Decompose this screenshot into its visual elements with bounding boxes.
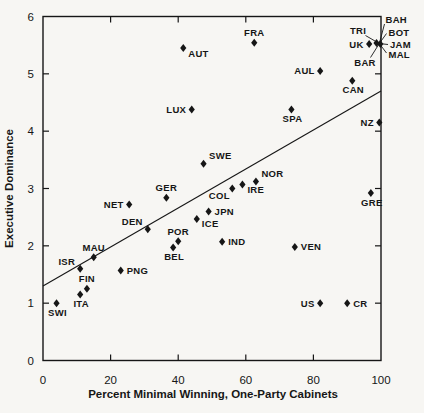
data-point-IND: IND	[219, 236, 245, 247]
y-tick-label-1: 1	[28, 297, 34, 309]
point-label: GER	[156, 182, 178, 193]
cluster-label-BOT: BOT	[389, 27, 410, 38]
data-point-DEN: DEN	[122, 216, 151, 233]
y-tick-label-6: 6	[28, 11, 34, 23]
marker-diamond	[317, 67, 323, 75]
marker-diamond	[239, 180, 245, 188]
point-label: ITA	[73, 298, 89, 309]
data-point-ICE: ICE	[194, 215, 219, 230]
point-label: ISR	[58, 256, 75, 267]
point-label: US	[301, 298, 315, 309]
data-point-IRE: IRE	[239, 180, 264, 195]
point-label: VEN	[301, 241, 321, 252]
y-tick-label-4: 4	[28, 125, 35, 137]
marker-diamond	[194, 215, 200, 223]
marker-diamond	[219, 238, 225, 246]
x-tick-label-0: 0	[40, 374, 46, 386]
data-point-FIN: FIN	[79, 273, 95, 293]
point-label: BEL	[164, 251, 184, 262]
marker-diamond	[366, 40, 372, 48]
marker-diamond	[84, 285, 90, 293]
point-label: IRE	[247, 184, 264, 195]
data-point-NZ: NZ	[361, 117, 383, 128]
marker-diamond	[292, 243, 298, 251]
x-tick-label-20: 20	[104, 374, 117, 386]
point-label: UK	[349, 39, 363, 50]
figure-page: 0204060801000123456Percent Minimal Winni…	[0, 0, 424, 413]
x-tick-label-60: 60	[239, 374, 252, 386]
marker-diamond	[251, 39, 257, 47]
point-label: ICE	[202, 218, 219, 229]
data-point-POR: POR	[167, 226, 189, 246]
point-label: CAN	[343, 84, 364, 95]
data-point-NET: NET	[104, 199, 133, 210]
cluster-label-BAH: BAH	[386, 14, 407, 25]
x-tick-labels: 020406080100	[40, 374, 391, 386]
x-tick-label-100: 100	[371, 374, 390, 386]
data-point-BEL: BEL	[164, 244, 184, 263]
point-label: LUX	[166, 104, 186, 115]
point-label: NET	[104, 199, 124, 210]
y-tick-label-5: 5	[28, 68, 34, 80]
point-label: SPA	[283, 113, 303, 124]
data-points: SWIITAFINISRMAUPNGNETDENGERPORBELICEJPNI…	[48, 27, 383, 317]
marker-diamond	[206, 207, 212, 215]
marker-diamond	[200, 160, 206, 168]
y-tick-label-3: 3	[28, 183, 34, 195]
data-point-COL: COL	[209, 185, 236, 202]
data-point-MAU: MAU	[82, 242, 105, 261]
point-label: GRE	[361, 197, 383, 208]
point-label: AUT	[188, 48, 208, 59]
data-point-SPA: SPA	[283, 105, 303, 124]
marker-diamond	[91, 253, 97, 261]
data-point-GRE: GRE	[361, 189, 383, 208]
point-label: DEN	[122, 216, 143, 227]
scatter-chart: 0204060801000123456Percent Minimal Winni…	[0, 0, 424, 413]
data-point-UK: UK	[349, 39, 372, 50]
y-tick-labels: 0123456	[28, 11, 35, 367]
marker-diamond	[180, 44, 186, 52]
marker-diamond	[317, 299, 323, 307]
cluster-label-MAL: MAL	[389, 49, 410, 60]
x-tick-label-40: 40	[172, 374, 185, 386]
marker-diamond	[175, 237, 181, 245]
x-axis-title: Percent Minimal Winning, One-Party Cabin…	[88, 388, 338, 400]
data-point-GER: GER	[156, 182, 178, 202]
point-label: JPN	[215, 206, 234, 217]
data-point-CR: CR	[344, 298, 367, 309]
marker-diamond	[163, 194, 169, 202]
data-point-PNG: PNG	[118, 265, 149, 276]
data-point-SWI: SWI	[48, 299, 67, 318]
point-label: PNG	[127, 265, 148, 276]
marker-diamond	[229, 185, 235, 193]
y-axis-title: Executive Dominance	[3, 129, 15, 248]
data-point-VEN: VEN	[292, 241, 322, 252]
cluster-label-TRI: TRI	[350, 25, 366, 36]
marker-diamond	[118, 266, 124, 274]
point-label: NZ	[361, 117, 374, 128]
point-label: COL	[209, 190, 230, 201]
point-label: IND	[228, 236, 245, 247]
cluster-label-BAR: BAR	[354, 57, 375, 68]
point-label: CR	[353, 298, 367, 309]
marker-diamond	[344, 299, 350, 307]
data-point-US: US	[301, 298, 323, 309]
point-label: SWI	[48, 307, 67, 318]
y-tick-label-2: 2	[28, 240, 34, 252]
point-label: NOR	[261, 168, 283, 179]
callout-line-BAR	[371, 44, 380, 58]
point-label: AUL	[294, 65, 314, 76]
point-label: POR	[167, 226, 189, 237]
data-point-CAN: CAN	[343, 77, 364, 96]
point-label: FIN	[79, 273, 95, 284]
marker-diamond	[126, 201, 132, 209]
data-point-NOR: NOR	[253, 168, 284, 186]
point-label: FRA	[244, 27, 264, 38]
data-point-JPN: JPN	[206, 206, 234, 217]
y-tick-label-0: 0	[28, 355, 34, 367]
data-point-LUX: LUX	[166, 104, 195, 115]
data-point-SWE: SWE	[200, 150, 231, 168]
data-point-ITA: ITA	[73, 291, 89, 310]
data-point-FRA: FRA	[244, 27, 264, 47]
marker-diamond	[189, 105, 195, 113]
